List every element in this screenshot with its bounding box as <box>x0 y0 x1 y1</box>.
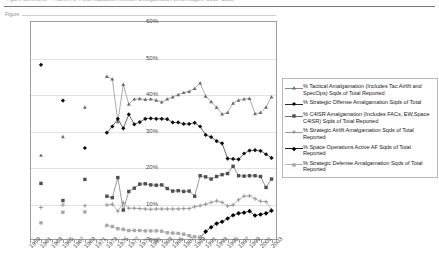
data-point-plus <box>83 204 87 208</box>
data-point-triangle <box>226 111 230 114</box>
data-point-diamond <box>132 122 136 126</box>
data-point-square-gray <box>160 230 163 233</box>
data-point-square <box>127 190 130 193</box>
series-line <box>107 166 272 210</box>
legend-marker-plus-icon <box>285 128 303 136</box>
data-point-square-gray <box>144 229 147 232</box>
data-point-square <box>259 175 262 178</box>
data-point-triangle <box>292 86 296 89</box>
data-point-diamond <box>253 148 257 152</box>
data-point-plus <box>176 207 180 211</box>
data-point-diamond <box>171 120 175 124</box>
data-point-square-gray <box>83 210 86 213</box>
legend-item[interactable]: % Strategic Offense Amalgamation Sqds of… <box>285 99 434 108</box>
series-line <box>107 76 272 121</box>
data-point-square-gray <box>292 163 295 166</box>
data-point-diamond <box>226 157 230 161</box>
data-point-diamond <box>83 146 87 150</box>
data-point-diamond <box>258 149 262 153</box>
data-point-square <box>292 114 295 117</box>
series-line <box>107 114 272 159</box>
data-point-diamond <box>247 148 251 152</box>
data-point-square-gray <box>193 235 196 238</box>
series-group <box>39 165 273 212</box>
data-point-square-gray <box>187 234 190 237</box>
data-point-plus <box>226 204 230 208</box>
data-point-diamond <box>220 141 224 145</box>
data-point-square <box>187 189 190 192</box>
data-point-square-gray <box>105 224 108 227</box>
data-point-diamond <box>292 102 296 106</box>
legend-item-label: % Strategic Offense Amalgamation Sqds of… <box>303 99 434 106</box>
legend-marker-diamond-icon <box>285 100 303 108</box>
data-point-square <box>39 182 42 185</box>
data-point-diamond <box>231 157 235 161</box>
data-point-square <box>111 196 114 199</box>
data-point-triangle <box>264 105 268 108</box>
legend-item[interactable]: % Strategic Airlift Amalgamation Sqds of… <box>285 127 434 140</box>
data-point-square <box>226 172 229 175</box>
data-point-plus <box>248 194 252 198</box>
data-point-diamond-filled <box>236 211 241 216</box>
data-point-diamond <box>198 124 202 128</box>
chart-page: Figure continued — Active Air Force squa… <box>0 0 439 274</box>
data-point-square <box>160 183 163 186</box>
legend-item[interactable]: % Tactical Amalgamation (Includes Tac Ai… <box>285 83 434 96</box>
data-point-square <box>204 175 207 178</box>
data-point-square <box>177 189 180 192</box>
data-point-plus <box>143 207 147 211</box>
data-point-square-gray <box>182 232 185 235</box>
data-point-diamond-filled <box>264 211 269 216</box>
data-point-square <box>242 174 245 177</box>
legend-item-label: % C4ISR Amalgamation (Includes FACs, EW,… <box>303 111 434 124</box>
data-point-diamond <box>121 126 125 130</box>
data-point-square <box>264 186 267 189</box>
data-point-diamond <box>264 152 268 156</box>
data-point-square-gray <box>171 231 174 234</box>
legend-item[interactable]: % Space Operations Active AF Sqds of Tot… <box>285 144 434 157</box>
data-point-diamond <box>193 121 197 125</box>
data-point-square <box>61 199 64 202</box>
data-point-square-gray <box>177 232 180 235</box>
data-point-square <box>237 174 240 177</box>
legend-item[interactable]: % C4ISR Amalgamation (Includes FACs, EW,… <box>285 111 434 124</box>
data-point-diamond <box>61 98 65 102</box>
series-group <box>39 210 202 239</box>
data-point-plus <box>292 130 296 134</box>
data-point-diamond <box>149 116 153 120</box>
data-point-plus <box>193 205 197 209</box>
clipped-header-line: Figure continued — Active Air Force squa… <box>6 0 233 2</box>
data-point-diamond-filled <box>214 221 219 226</box>
data-point-plus <box>182 207 186 211</box>
data-point-triangle <box>110 77 114 80</box>
data-point-square-gray <box>39 221 42 224</box>
data-point-square <box>253 174 256 177</box>
data-point-square-gray <box>138 229 141 232</box>
legend-item-label: % Strategic Airlift Amalgamation Sqds of… <box>303 127 434 140</box>
data-point-square-gray <box>122 228 125 231</box>
series-group <box>198 209 274 240</box>
data-point-square <box>83 178 86 181</box>
data-point-triangle <box>121 83 125 86</box>
data-point-square <box>133 186 136 189</box>
data-point-square <box>116 176 119 179</box>
data-point-diamond <box>187 122 191 126</box>
data-point-square <box>144 182 147 185</box>
legend-item-label: % Space Operations Active AF Sqds of Tot… <box>303 144 434 157</box>
data-point-plus <box>204 202 208 206</box>
data-point-plus <box>160 207 164 211</box>
data-point-square <box>215 175 218 178</box>
legend-item[interactable]: % Strategic Defense Amalgamation Sqds of… <box>285 160 434 173</box>
data-point-square <box>155 184 158 187</box>
data-point-triangle <box>204 94 208 97</box>
data-point-diamond-filled <box>258 212 263 217</box>
data-point-plus <box>149 207 153 211</box>
data-point-square-gray <box>127 229 130 232</box>
data-point-square <box>270 177 273 180</box>
data-point-plus <box>264 200 268 204</box>
data-point-diamond-filled <box>242 210 247 215</box>
data-point-triangle <box>61 135 65 138</box>
data-point-square <box>182 190 185 193</box>
legend-marker-square-gray-icon <box>285 161 303 169</box>
data-point-triangle <box>39 153 43 156</box>
